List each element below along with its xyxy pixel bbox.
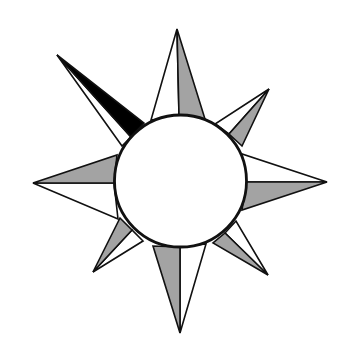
east-point — [242, 154, 327, 210]
north-point — [151, 29, 205, 120]
west-point — [33, 155, 118, 219]
compass-rose-diagram — [0, 0, 351, 363]
compass-rose-svg — [0, 0, 351, 363]
center-circle — [115, 115, 247, 247]
south-point — [153, 244, 206, 333]
northwest-point-highlighted — [57, 55, 144, 146]
